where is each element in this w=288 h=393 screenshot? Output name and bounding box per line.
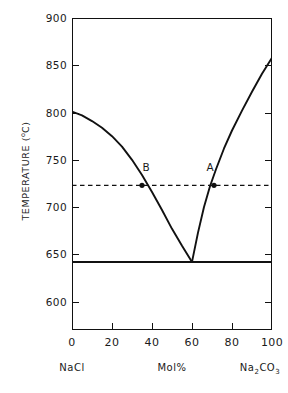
y-tick-right-650 (265, 254, 272, 255)
y-axis-title: TEMPERATURE (oC) (15, 71, 31, 271)
point-label-a: A (206, 161, 213, 173)
y-tick-label-900: 900 (46, 12, 67, 24)
y-tick-label-650: 650 (46, 248, 67, 260)
x-tick-label-60: 60 (185, 336, 200, 349)
x-axis-endpoint-label-right: Na2CO3 (240, 362, 280, 373)
y-tick-750: 750 (72, 160, 79, 161)
x-tick-label-40: 40 (145, 336, 160, 349)
y-tick-right-750 (265, 160, 272, 161)
y-tick-label-600: 600 (46, 296, 67, 308)
nacl-liquidus-curve (72, 112, 192, 262)
x-axis-center-label: Mol% (157, 362, 186, 373)
y-tick-900: 900 (72, 18, 79, 19)
co-text: CO (259, 362, 275, 373)
co-subscript: 3 (275, 368, 280, 376)
y-tick-right-850 (265, 65, 272, 66)
x-tick-label-80: 80 (225, 336, 240, 349)
y-tick-right-700 (265, 207, 272, 208)
y-tick-label-800: 800 (46, 107, 67, 119)
na-text: Na (240, 362, 255, 373)
y-tick-700: 700 (72, 207, 79, 208)
plot-area: 900850800750700650600 (72, 18, 272, 330)
series-group (72, 58, 272, 262)
y-tick-right-800 (265, 113, 272, 114)
y-tick-label-850: 850 (46, 59, 67, 71)
x-tick-80 (232, 323, 233, 330)
y-tick-right-900 (265, 18, 272, 19)
y-tick-850: 850 (72, 65, 79, 66)
curves-layer (72, 18, 272, 330)
x-axis-endpoint-label-left: NaCl (59, 362, 84, 373)
phase-diagram-figure: TEMPERATURE (oC) 900850800750700650600 0… (0, 0, 288, 393)
na2co3-liquidus-curve (192, 58, 272, 262)
x-tick-60 (192, 323, 193, 330)
data-point-marker-b (139, 183, 144, 188)
y-axis-title-text: TEMPERATURE ( (20, 137, 31, 221)
degree-superscript: o (19, 133, 27, 137)
point-label-b: B (142, 161, 149, 173)
na-subscript: 2 (254, 368, 259, 376)
x-tick-20 (112, 323, 113, 330)
data-point-marker-a (211, 183, 216, 188)
x-tick-label-0: 0 (68, 336, 75, 349)
y-tick-label-700: 700 (46, 201, 67, 213)
y-tick-650: 650 (72, 254, 79, 255)
x-tick-label-100: 100 (261, 336, 283, 349)
y-tick-800: 800 (72, 113, 79, 114)
y-axis-title-tail: C) (20, 121, 31, 133)
y-tick-label-750: 750 (46, 154, 67, 166)
y-tick-right-600 (265, 302, 272, 303)
x-tick-label-20: 20 (105, 336, 120, 349)
y-tick-600: 600 (72, 302, 79, 303)
x-tick-40 (152, 323, 153, 330)
